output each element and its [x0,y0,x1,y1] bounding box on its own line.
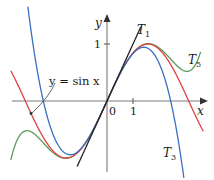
t3-label: T3 [163,146,176,162]
t1-line [77,27,141,167]
taylor-polynomial-figure: y 1 0 1 x y = sin x T1 T5 T3 [0,0,214,180]
t1-label: T1 [137,23,150,39]
t5-curve [11,44,201,160]
y-axis-label: y [94,16,102,30]
y-tick-label: 1 [94,38,101,51]
pointer-dot-icon [30,112,33,115]
x-axis-label: x [197,104,204,118]
origin-label: 0 [109,105,116,118]
y-axis-arrow-icon [104,14,111,22]
t3-curve [28,7,184,178]
sin-curve-label: y = sin x [48,74,100,88]
x-tick-label: 1 [130,105,137,118]
